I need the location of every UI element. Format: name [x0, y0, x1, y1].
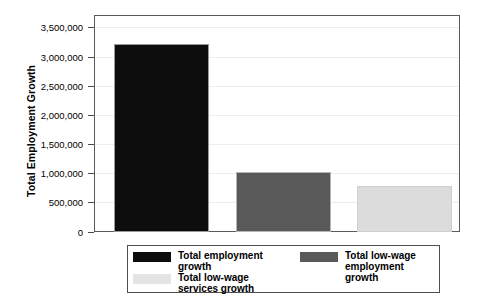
legend-item-total-low-wage-services-growth: Total low-wage services growth — [133, 272, 254, 294]
legend-swatch-total-low-wage-services-growth — [133, 274, 171, 284]
y-tick-label-6: 3,000,000 — [41, 53, 83, 63]
legend-label-total-low-wage-services-growth: Total low-wage services growth — [178, 272, 254, 294]
y-axis-title: Total Employment Growth — [25, 31, 37, 231]
legend-swatch-total-employment-growth — [133, 252, 171, 262]
y-tick-label-0: 0 — [78, 228, 83, 238]
legend-item-total-employment-growth: Total employment growth — [133, 250, 263, 272]
y-tick-label-4: 2,000,000 — [41, 111, 83, 121]
bar-total-employment-growth — [114, 44, 209, 232]
legend-label-total-low-wage-employment-growth: Total low-wage employment growth — [345, 250, 439, 283]
legend-swatch-total-low-wage-employment-growth — [300, 252, 338, 262]
plot-area — [94, 15, 460, 232]
bar-total-low-wage-employment-growth — [236, 172, 331, 232]
y-tick-label-5: 2,500,000 — [41, 82, 83, 92]
y-tick-label-3: 1,500,000 — [41, 140, 83, 150]
y-tick-mark-0 — [88, 232, 94, 233]
y-tick-label-2: 1,000,000 — [41, 169, 83, 179]
bar-total-low-wage-services-growth — [357, 186, 452, 232]
bar-chart-figure: Total Employment Growth 0 500,000 1,000,… — [0, 0, 497, 306]
y-tick-label-7: 3,500,000 — [41, 23, 83, 33]
y-tick-label-1: 500,000 — [49, 198, 83, 208]
legend-label-total-employment-growth: Total employment growth — [178, 250, 263, 272]
gridline-3500000 — [95, 27, 459, 28]
chart-legend: Total employment growth Total low-wage e… — [127, 245, 440, 293]
legend-item-total-low-wage-employment-growth: Total low-wage employment growth — [300, 250, 439, 283]
